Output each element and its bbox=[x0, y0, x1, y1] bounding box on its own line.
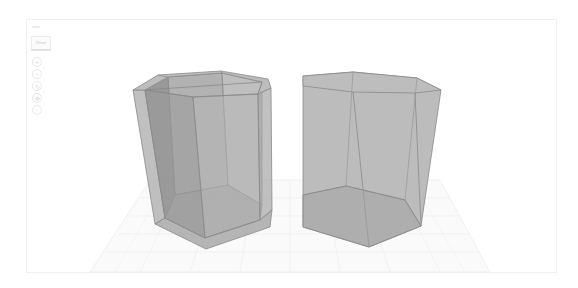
zoom-in-icon[interactable]: + bbox=[32, 57, 42, 67]
reset-view-button[interactable]: Reset bbox=[31, 36, 51, 51]
solid-hexagonal-prism[interactable] bbox=[303, 72, 441, 247]
3d-scene[interactable] bbox=[0, 0, 578, 288]
toolbar-header-label: view bbox=[32, 24, 48, 30]
viewer-toolbar: view Reset + − ↻ ✥ ◦ bbox=[29, 22, 51, 117]
pan-icon[interactable]: ✥ bbox=[32, 93, 42, 103]
toolbar-icon-column: + − ↻ ✥ ◦ bbox=[32, 57, 51, 115]
rotate-icon[interactable]: ↻ bbox=[32, 81, 42, 91]
fit-icon[interactable]: ◦ bbox=[32, 105, 42, 115]
zoom-out-icon[interactable]: − bbox=[32, 69, 42, 79]
